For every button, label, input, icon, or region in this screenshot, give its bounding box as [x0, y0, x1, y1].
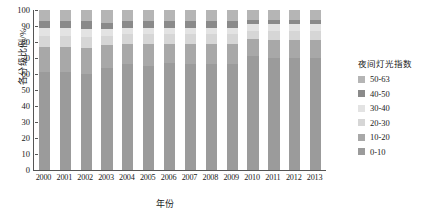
y-axis-tick: 30: [4, 117, 34, 127]
bar-segment: [268, 31, 279, 41]
x-axis-tick: 2001: [54, 173, 75, 182]
bar-segment: [60, 10, 71, 21]
bar-segment: [164, 34, 175, 44]
x-axis-tick: 2006: [158, 173, 179, 182]
legend-swatch: [358, 148, 365, 155]
y-axis-tickmark: [35, 42, 38, 43]
y-axis-tick: 10: [4, 149, 34, 159]
y-axis-tick: 20: [4, 133, 34, 143]
x-axis-tick: 2007: [179, 173, 200, 182]
bar-segment: [60, 47, 71, 73]
x-axis-tick: 2000: [33, 173, 54, 182]
bar-segment: [39, 47, 50, 73]
bar-segment: [143, 34, 154, 44]
bar-segment: [143, 44, 154, 66]
bar-segment: [185, 64, 196, 170]
bar-segment: [247, 56, 258, 170]
bar[interactable]: [164, 10, 175, 170]
bar-segment: [206, 34, 217, 44]
y-axis-tickmark: [35, 170, 38, 171]
bar[interactable]: [122, 10, 133, 170]
stacked-bars: [34, 10, 326, 170]
legend-label: 50-63: [370, 74, 390, 84]
bar[interactable]: [227, 10, 238, 170]
bar-segment: [101, 68, 112, 170]
bar-slot: [243, 10, 264, 170]
plot-area: 0102030405060708090100: [33, 10, 326, 171]
legend-item[interactable]: 50-63: [358, 74, 433, 84]
bar-slot: [76, 10, 97, 170]
bar-segment: [101, 36, 112, 46]
legend-label: 0-10: [370, 147, 386, 157]
y-axis-tickmark: [35, 26, 38, 27]
bar-segment: [247, 10, 258, 20]
y-axis-tick: 60: [4, 69, 34, 79]
legend-item[interactable]: 0-10: [358, 147, 433, 157]
bar-segment: [81, 29, 92, 37]
bar-segment: [206, 10, 217, 21]
bar-segment: [39, 10, 50, 21]
x-axis-tick: 2010: [242, 173, 263, 182]
x-axis-tick: 2003: [96, 173, 117, 182]
bar-segment: [101, 10, 112, 23]
x-axis-tick: 2008: [200, 173, 221, 182]
legend-item[interactable]: 30-40: [358, 103, 433, 113]
bar-segment: [310, 58, 321, 170]
bar-segment: [81, 48, 92, 74]
bar[interactable]: [185, 10, 196, 170]
bar[interactable]: [39, 10, 50, 170]
bar[interactable]: [143, 10, 154, 170]
bar-segment: [39, 28, 50, 36]
bar-segment: [227, 64, 238, 170]
bar-slot: [263, 10, 284, 170]
legend-title: 夜间灯光指数: [358, 57, 433, 69]
bar-segment: [227, 34, 238, 44]
bar[interactable]: [310, 10, 321, 170]
bar-slot: [305, 10, 326, 170]
bar[interactable]: [289, 10, 300, 170]
bar-segment: [60, 72, 71, 170]
bar-segment: [101, 45, 112, 67]
legend-items: 50-6340-5030-4020-3010-200-10: [358, 74, 433, 157]
bar[interactable]: [206, 10, 217, 170]
legend-swatch: [358, 105, 365, 112]
bar-segment: [81, 74, 92, 170]
bar-segment: [143, 10, 154, 21]
bar-segment: [185, 44, 196, 65]
bar-segment: [310, 10, 321, 20]
y-axis-tickmark: [35, 74, 38, 75]
bar[interactable]: [268, 10, 279, 170]
bar-segment: [60, 28, 71, 36]
legend-label: 30-40: [370, 103, 390, 113]
bar-segment: [81, 10, 92, 21]
bar-segment: [289, 40, 300, 58]
legend-item[interactable]: 10-20: [358, 132, 433, 142]
bar-segment: [39, 72, 50, 170]
bar[interactable]: [81, 10, 92, 170]
y-axis-tick: 0: [4, 165, 34, 175]
bar[interactable]: [247, 10, 258, 170]
x-axis-tick: 2012: [283, 173, 304, 182]
bar-segment: [206, 44, 217, 65]
x-axis-tick: 2004: [116, 173, 137, 182]
x-axis-tick-labels: 2000200120022003200420052006200720082009…: [33, 173, 325, 182]
y-axis-tickmark: [35, 90, 38, 91]
bar-segment: [268, 58, 279, 170]
bar-segment: [289, 31, 300, 41]
bar-segment: [164, 44, 175, 63]
x-axis-tick: 2011: [262, 173, 283, 182]
bar-segment: [60, 36, 71, 47]
x-axis-tick: 2009: [221, 173, 242, 182]
bar-segment: [122, 64, 133, 170]
bar-slot: [222, 10, 243, 170]
legend-swatch: [358, 90, 365, 97]
bar-segment: [310, 40, 321, 58]
y-axis-tickmark: [35, 154, 38, 155]
legend-item[interactable]: 20-30: [358, 118, 433, 128]
bar[interactable]: [60, 10, 71, 170]
bar-segment: [268, 10, 279, 20]
y-axis-tickmark: [35, 122, 38, 123]
bar[interactable]: [101, 10, 112, 170]
y-axis-tickmark: [35, 58, 38, 59]
legend-item[interactable]: 40-50: [358, 89, 433, 99]
